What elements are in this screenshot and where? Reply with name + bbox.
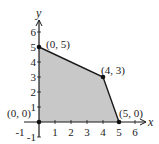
y-tick-label: -1 [27,131,36,143]
feasible-region-chart: -1 1 2 3 4 5 6 -1 1 2 3 4 5 6 x y [0,0,159,144]
vertex-label-origin: (0, 0) [7,107,31,120]
y-tick-label: 4 [31,56,37,68]
y-tick-label: 2 [31,86,37,98]
y-tick-label: 5 [31,41,37,53]
x-tick-label: 5 [116,126,122,138]
vertex-point-0-5 [37,45,42,50]
y-tick-label: 3 [31,71,37,83]
x-tick-label: 1 [52,126,58,138]
vertex-label-0-5: (0, 5) [46,38,70,51]
y-axis-label: y [35,6,42,20]
x-axis-label: x [147,115,154,129]
x-tick-label: 2 [68,126,74,138]
vertex-label-5-0: (5, 0) [119,107,143,120]
x-tick-label: -1 [15,126,24,138]
y-tick-label: 1 [31,101,37,113]
feasible-region [39,47,119,122]
vertex-point-5-0 [117,120,122,125]
y-tick-label: 6 [31,26,37,38]
vertex-label-4-3: (4, 3) [101,64,125,77]
x-tick-label: 6 [132,126,138,138]
x-tick-label: 3 [84,126,90,138]
x-tick-label: 4 [100,126,106,138]
vertex-point-origin [37,120,42,125]
